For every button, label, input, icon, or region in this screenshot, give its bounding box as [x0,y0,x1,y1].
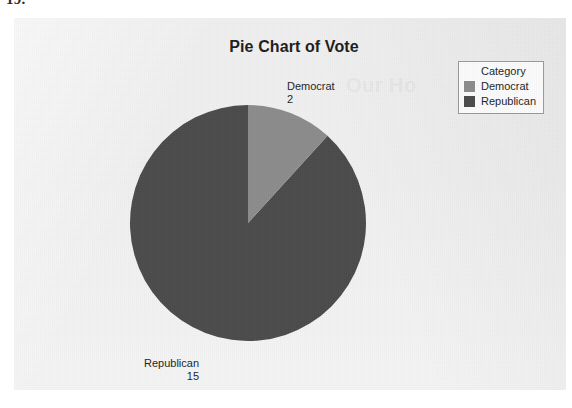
legend-item-republican[interactable]: Republican [464,95,536,109]
legend-label-democrat: Democrat [481,80,529,94]
data-label-republican-name: Republican [144,357,199,370]
data-label-democrat-value: 2 [287,93,335,106]
data-label-republican-value: 15 [144,370,199,383]
legend-swatch-democrat [464,81,475,92]
data-label-republican: Republican 15 [144,357,199,384]
legend-title: Category [464,65,536,79]
legend-swatch-republican [464,96,475,107]
pie-chart-panel: Pie Chart of Vote Our Ho Democrat 2 Repu… [14,18,566,390]
data-label-democrat: Democrat 2 [287,80,335,107]
legend-item-democrat[interactable]: Democrat [464,80,536,94]
data-label-democrat-name: Democrat [287,80,335,92]
page-number: 19. [6,0,26,8]
legend-label-republican: Republican [481,95,536,109]
chart-legend: Category Democrat Republican [458,61,544,114]
